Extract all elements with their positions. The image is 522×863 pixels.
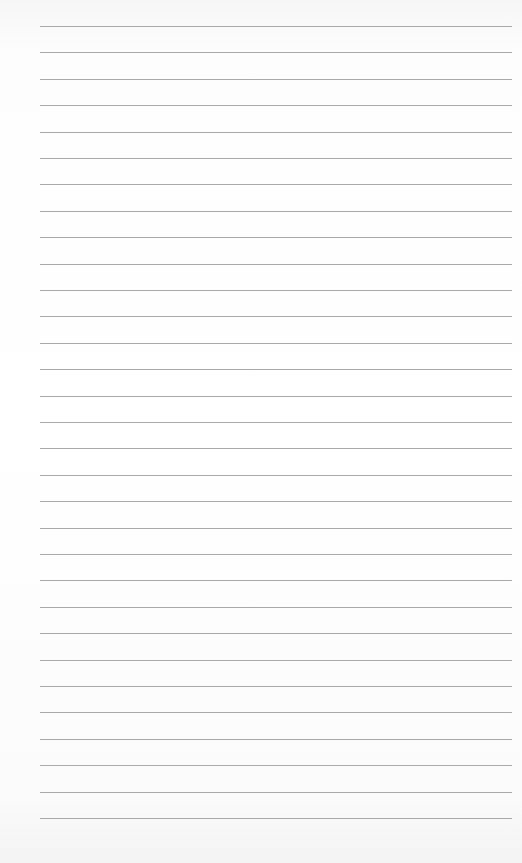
- ruled-line: [40, 818, 512, 819]
- ruled-line: [40, 554, 512, 555]
- ruled-line: [40, 184, 512, 185]
- ruled-line: [40, 79, 512, 80]
- ruled-line: [40, 158, 512, 159]
- ruled-line: [40, 739, 512, 740]
- ruled-line: [40, 26, 512, 27]
- ruled-line: [40, 316, 512, 317]
- ruled-line: [40, 660, 512, 661]
- ruled-line: [40, 422, 512, 423]
- ruled-line: [40, 686, 512, 687]
- ruled-line: [40, 633, 512, 634]
- ruled-line: [40, 528, 512, 529]
- ruled-line: [40, 264, 512, 265]
- ruled-line: [40, 712, 512, 713]
- ruled-line: [40, 580, 512, 581]
- ruled-line: [40, 792, 512, 793]
- ruled-line: [40, 52, 512, 53]
- ruled-line: [40, 290, 512, 291]
- lined-paper-page: [0, 0, 522, 863]
- ruled-line: [40, 501, 512, 502]
- ruled-line: [40, 607, 512, 608]
- ruled-line: [40, 448, 512, 449]
- ruled-line: [40, 211, 512, 212]
- ruled-line: [40, 475, 512, 476]
- ruled-line: [40, 343, 512, 344]
- ruled-line: [40, 237, 512, 238]
- ruled-line: [40, 105, 512, 106]
- ruled-line: [40, 132, 512, 133]
- ruled-line: [40, 369, 512, 370]
- ruled-line: [40, 765, 512, 766]
- ruled-line: [40, 396, 512, 397]
